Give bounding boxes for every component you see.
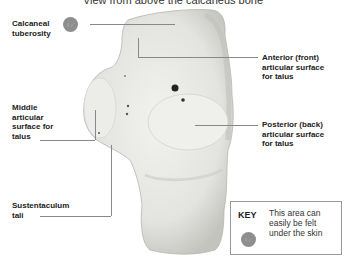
leader-line-sustentaculum-vertical (111, 145, 112, 216)
leader-line-posterior-surface (195, 125, 258, 126)
foramen (181, 98, 185, 102)
label-sustentaculum-tali: Sustentaculum tali (12, 201, 69, 220)
middle-articular-surface (84, 78, 116, 138)
key-legend: KEY ☞ This area can easily be felt under… (230, 201, 342, 255)
label-posterior-surface: Posterior (back) articular surface for t… (262, 120, 324, 149)
foramen (172, 85, 179, 92)
leader-line-calcaneal-tuberosity (90, 24, 175, 25)
palpable-hand-icon: ☞ (241, 232, 256, 247)
label-middle-surface: Middle articular surface for talus (12, 103, 53, 141)
key-title: KEY (238, 210, 257, 220)
key-description: This area can easily be felt under the s… (269, 208, 341, 238)
foramen (127, 105, 129, 107)
label-anterior-surface: Anterior (front) articular surface for t… (262, 53, 324, 82)
leader-line-anterior-surface (138, 57, 258, 58)
leader-line-middle-surface-vertical (95, 110, 96, 140)
foramen (98, 132, 100, 134)
foramen (126, 113, 128, 115)
label-calcaneal-tuberosity: Calcaneal tuberosity (12, 19, 51, 38)
leader-line-anterior-surface-vertical (138, 38, 139, 57)
palpable-hand-icon: ☞ (63, 17, 78, 32)
posterior-articular-surface (148, 94, 228, 150)
foramen (124, 75, 126, 77)
